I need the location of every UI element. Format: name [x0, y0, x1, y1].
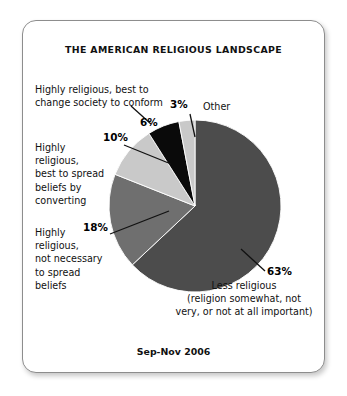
chart-card: THE AMERICAN RELIGIOUS LANDSCAPE Highly … [22, 20, 325, 373]
slice-label-not-necessary-to-spread: Highly religious, not necessary to sprea… [35, 226, 102, 292]
slice-percent-spread-by-converting: 10% [103, 131, 128, 143]
slice-percent-other: 3% [170, 98, 188, 110]
slice-percent-not-necessary-to-spread: 18% [83, 221, 108, 233]
chart-date-caption: Sep-Nov 2006 [23, 346, 324, 357]
slice-label-spread-by-converting: Highly religious, best to spread beliefs… [35, 141, 104, 207]
pie-slice-group [109, 120, 281, 292]
slice-percent-change-society-to-conform: 6% [140, 116, 158, 128]
slice-label-change-society-to-conform: Highly religious, best to change society… [35, 83, 163, 109]
slice-percent-less-religious: 63% [267, 265, 292, 277]
slice-label-less-religious: Less religious (religion somewhat, not v… [163, 279, 325, 319]
slice-label-other: Other [203, 100, 230, 113]
